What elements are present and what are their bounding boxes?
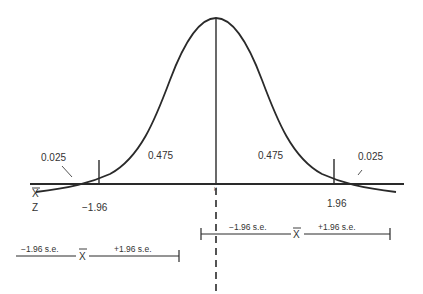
lower-interval-xbar: X	[79, 251, 86, 262]
left-center-area-label: 0.475	[148, 150, 173, 161]
left-tail-area-label: 0.025	[41, 152, 66, 163]
right-tail-pointer	[358, 170, 362, 175]
right-center-area-label: 0.475	[258, 150, 283, 161]
mu-label: μ	[214, 185, 217, 191]
upper-interval-plus-label: +1.96 s.e.	[318, 222, 356, 232]
confidence-interval-lower: −1.96 s.e. X +1.96 s.e.	[16, 244, 179, 262]
z-axis-label: Z	[32, 202, 38, 213]
z-upper-label: 1.96	[327, 198, 347, 209]
confidence-interval-upper: −1.96 s.e. X +1.96 s.e.	[201, 222, 390, 240]
upper-interval-xbar: X	[293, 229, 300, 240]
right-tail-area-label: 0.025	[358, 151, 383, 162]
lower-interval-minus-label: −1.96 s.e.	[21, 244, 59, 254]
lower-interval-plus-label: +1.96 s.e.	[114, 244, 152, 254]
left-tail-pointer	[62, 166, 72, 177]
upper-interval-minus-label: −1.96 s.e.	[229, 222, 267, 232]
normal-distribution-diagram: 0.025 0.475 0.475 0.025 μ X Z −1.96 1.96…	[0, 0, 423, 294]
xbar-axis-label: X	[32, 188, 39, 199]
z-lower-label: −1.96	[82, 202, 108, 213]
